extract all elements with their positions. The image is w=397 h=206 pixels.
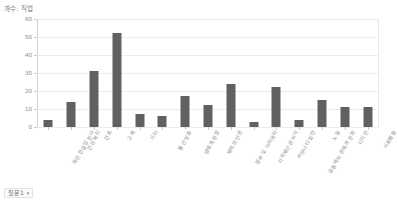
bar[interactable] [135, 114, 144, 127]
x-axis-label: 지적재산권 저작 [275, 129, 299, 164]
bar-slot [83, 19, 106, 127]
bar[interactable] [363, 107, 372, 127]
bar[interactable] [340, 107, 349, 127]
x-axis-label: 통신 방송 [176, 129, 193, 151]
chevron-down-icon: ▾ [27, 191, 30, 196]
bar-slot [151, 19, 174, 127]
y-tick-label: 0 [2, 124, 32, 130]
x-axis-label: 생태계 환경 [202, 129, 221, 156]
y-tick-label: 60 [2, 16, 32, 22]
y-tick-label: 20 [2, 88, 32, 94]
bar[interactable] [317, 100, 326, 127]
x-axis-label: 기타 [148, 129, 159, 141]
bar-slot [60, 19, 83, 127]
bar[interactable] [295, 120, 304, 127]
x-axis-label: 사회평등 [381, 129, 397, 150]
bar[interactable] [112, 33, 121, 127]
bar-slot [356, 19, 379, 127]
bar-slot [105, 19, 128, 127]
x-axis-label: 디자인 [355, 129, 369, 145]
bar-slot [311, 19, 334, 127]
bar[interactable] [181, 96, 190, 127]
bar[interactable] [44, 120, 53, 127]
chart-title: 개수: 직업 [4, 3, 33, 13]
bar-slot [288, 19, 311, 127]
bar-series [37, 19, 379, 127]
bar-slot [333, 19, 356, 127]
bar-slot [219, 19, 242, 127]
y-tick-label: 50 [2, 34, 32, 40]
bar[interactable] [272, 87, 281, 127]
x-axis-label: 재택의 인권 [224, 129, 243, 156]
y-tick-mark [34, 127, 37, 128]
x-axis-label: 교육 [125, 129, 136, 141]
bar-slot [37, 19, 60, 127]
bar[interactable] [203, 105, 212, 127]
bar-slot [174, 19, 197, 127]
y-tick-label: 40 [2, 52, 32, 58]
bar[interactable] [89, 71, 98, 127]
bar-slot [197, 19, 220, 127]
bar-slot [128, 19, 151, 127]
x-axis-label: 노동 [330, 129, 341, 141]
bar[interactable] [158, 116, 167, 127]
y-tick-label: 30 [2, 70, 32, 76]
question-select-dropdown[interactable]: 질문1 ▾ [4, 188, 33, 198]
x-axis-label: 건축 [102, 129, 113, 141]
y-tick-label: 10 [2, 106, 32, 112]
question-select-label: 질문1 [8, 190, 24, 196]
bar-slot [242, 19, 265, 127]
bar[interactable] [226, 84, 235, 127]
x-axis-category-labels: 개인 컨설팅 분야건강 복지건축교육기타통신 방송생태계 환경재택의 인권정부 … [37, 129, 379, 181]
bar[interactable] [67, 102, 76, 127]
bar-slot [265, 19, 288, 127]
